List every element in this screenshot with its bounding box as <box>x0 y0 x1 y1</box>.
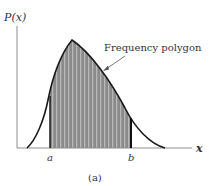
figure-caption: (a) <box>88 172 102 183</box>
x-axis-label: x <box>195 142 203 155</box>
arrowhead-icon <box>103 66 109 72</box>
frequency-polygon-figure: P(x) Frequency polygon a b x (a) <box>0 0 214 186</box>
y-axis-label: P(x) <box>3 11 26 24</box>
marker-b-label: b <box>128 152 134 163</box>
annotation-arrow <box>106 56 125 69</box>
marker-a-label: a <box>47 152 53 163</box>
shaded-area <box>27 40 165 148</box>
annotation-label: Frequency polygon <box>104 42 202 53</box>
